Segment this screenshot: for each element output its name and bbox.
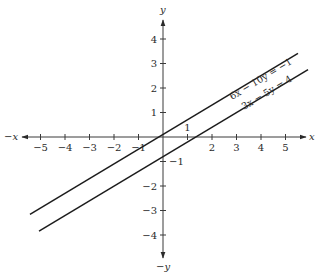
- y-tick-label: −1: [169, 156, 184, 167]
- y-tick-label: 2: [151, 83, 157, 94]
- y-tick-label: 4: [151, 34, 157, 45]
- x-tick-label: −3: [82, 142, 97, 153]
- x-tick-label: 1: [184, 122, 190, 133]
- x-tick-label: −2: [107, 142, 122, 153]
- x-axis-label: x: [309, 131, 315, 142]
- y-tick-label: 1: [151, 107, 157, 118]
- x-tick-label: −1: [131, 142, 146, 153]
- y-tick-label: −3: [142, 205, 157, 216]
- y-axis-label: y: [159, 4, 166, 15]
- x-tick-label: 4: [258, 142, 264, 153]
- graph-of-parallel-lines: −x x y −y −5−4−3−2−112345 −4−3−2−11234 6…: [0, 0, 318, 276]
- x-tick-label: 2: [209, 142, 215, 153]
- x-axis-negative-label: −x: [4, 131, 18, 142]
- y-tick-label: −4: [142, 230, 157, 241]
- x-tick-label: 5: [282, 142, 288, 153]
- x-tick-label: −5: [33, 142, 48, 153]
- y-tick-label: −2: [142, 181, 157, 192]
- x-tick-label: −4: [58, 142, 73, 153]
- x-tick-label: 3: [233, 142, 239, 153]
- y-axis-negative-label: −y: [156, 261, 170, 272]
- y-tick-label: 3: [151, 58, 157, 69]
